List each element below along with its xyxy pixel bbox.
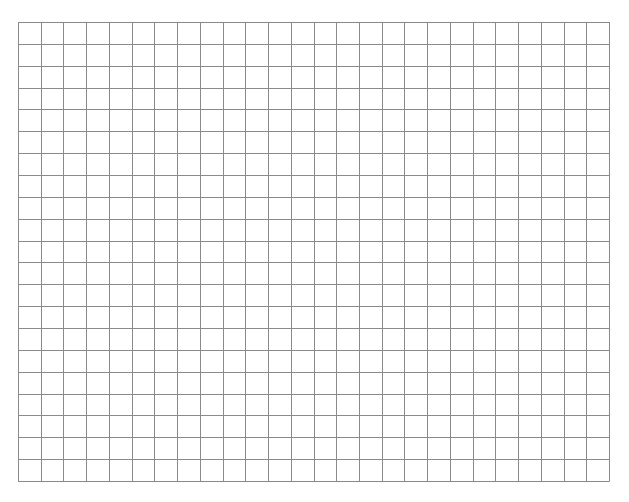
graph-paper-grid <box>18 22 610 482</box>
